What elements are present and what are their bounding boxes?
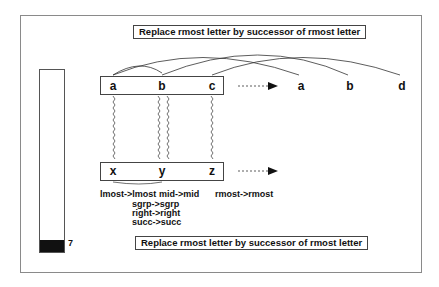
wavy-bond-a-x [113, 96, 115, 159]
dashed-arrow-right-icon [238, 167, 278, 175]
mapping-succ: succ->succ [132, 217, 181, 227]
target-letter: z [209, 165, 215, 177]
arc-a-to-b-top [113, 66, 162, 75]
wavy-bond-b-y-1 [158, 96, 160, 159]
wavy-bond-b-y-2 [167, 96, 169, 159]
mapping-mid: mid->mid [159, 189, 199, 199]
modified-letter: a [298, 80, 305, 92]
target-letter: y [159, 165, 166, 177]
dashed-arrow-right-icon [238, 82, 278, 90]
wavy-bond-c-z [211, 96, 213, 159]
modified-letter: b [346, 80, 353, 92]
initial-letter: c [209, 80, 216, 92]
initial-letter: b [158, 80, 165, 92]
mapping-rmost: rmost->rmost [215, 189, 273, 199]
initial-letter: a [110, 80, 117, 92]
mapping-lmost: lmost->lmost [100, 189, 156, 199]
arc-x-to-y-bottom [113, 182, 162, 184]
rule-label-bottom: Replace rmost letter by successor of rmo… [135, 236, 368, 250]
modified-letter: d [398, 80, 405, 92]
target-letter: x [110, 165, 117, 177]
